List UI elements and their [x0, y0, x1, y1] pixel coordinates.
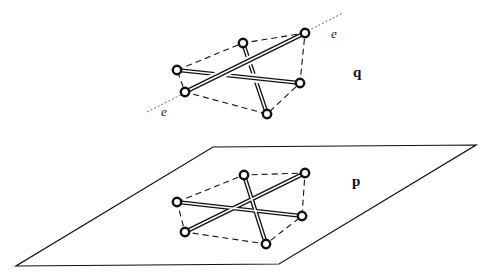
plane-parallelogram — [16, 145, 476, 266]
upper-configuration-q: e e q — [147, 13, 362, 119]
lower-configuration-p: p — [16, 145, 476, 266]
label-q: q — [353, 64, 362, 80]
node — [181, 88, 189, 96]
node — [239, 39, 247, 47]
node — [173, 66, 181, 74]
node — [181, 228, 189, 236]
label-p: p — [352, 173, 360, 189]
diagram-canvas: e e q p — [0, 0, 494, 280]
node — [301, 29, 309, 37]
axis-label-e-top: e — [331, 26, 337, 41]
node — [298, 212, 306, 220]
upper-bar-horizontal — [177, 70, 300, 83]
node — [296, 79, 304, 87]
node — [173, 198, 181, 206]
node — [240, 171, 248, 179]
node — [301, 169, 309, 177]
axis-label-e-bottom: e — [161, 104, 167, 119]
node — [263, 110, 271, 118]
node — [262, 240, 270, 248]
